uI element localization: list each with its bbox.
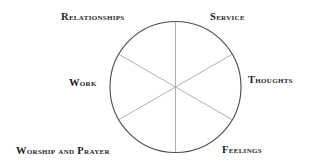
- label-thoughts: Thoughts: [248, 75, 293, 86]
- label-work: Work: [69, 78, 97, 89]
- label-feelings: Feelings: [222, 145, 262, 156]
- wheel-diagram: Relationships Service Thoughts Feelings …: [0, 0, 320, 167]
- spokes: [119, 22, 232, 153]
- label-relationships: Relationships: [61, 12, 124, 23]
- label-worship-and-prayer: Worship and Prayer: [16, 146, 110, 157]
- label-service: Service: [210, 12, 245, 23]
